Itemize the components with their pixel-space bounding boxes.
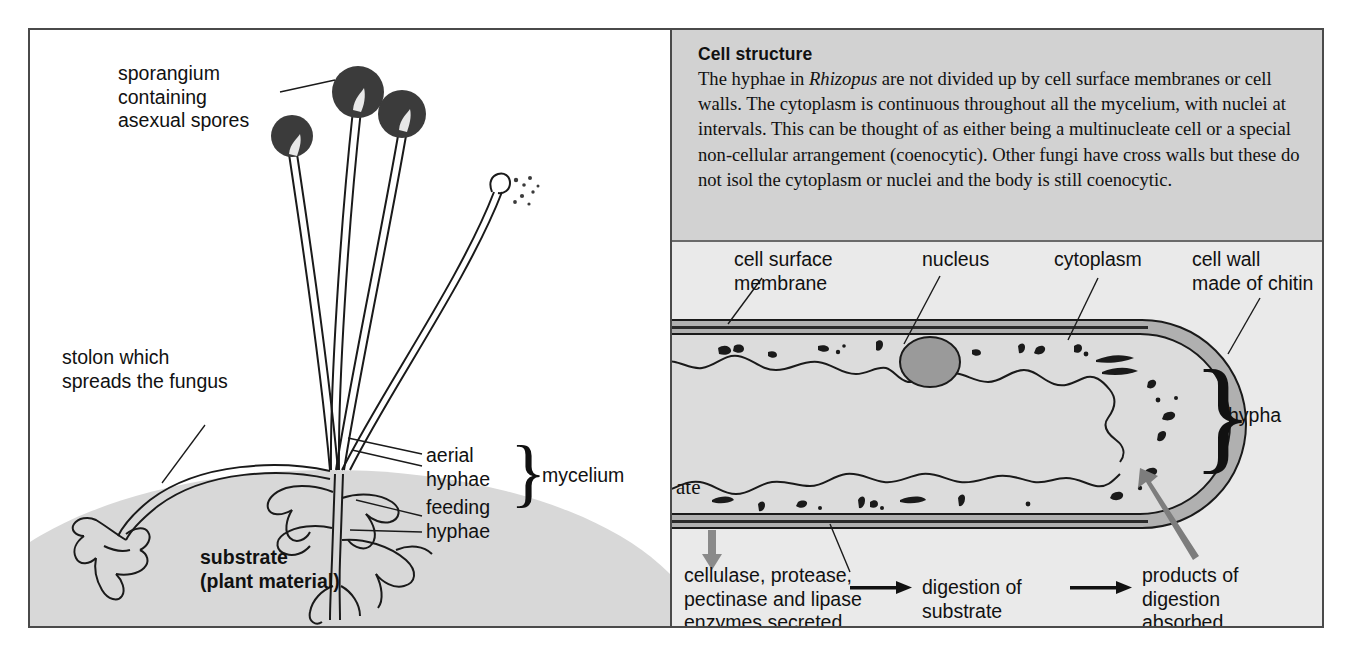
flow-arrow-2	[1070, 581, 1132, 594]
label-substrate: substrate (plant material)	[200, 546, 340, 593]
genus-name-rhizopus: Rhizopus	[809, 68, 877, 89]
membrane-line-bottom	[672, 520, 1148, 523]
label-substrate-clipped: ate	[676, 476, 700, 500]
label-mycelium: mycelium	[542, 464, 624, 488]
sporangium-heads	[271, 66, 426, 157]
mycelium-brace: }	[510, 434, 546, 510]
label-cytoplasm: cytoplasm	[1054, 248, 1142, 272]
label-aerial-hyphae: aerial hyphae	[426, 444, 490, 491]
flow-step-enzymes-secreted: cellulase, protease, pectinase and lipas…	[684, 564, 862, 628]
right-panel-hypha-detail: Cell structure The hyphae in Rhizopus ar…	[672, 28, 1324, 628]
cell-structure-title: Cell structure	[698, 44, 1300, 65]
figure-canvas: sporangium containing asexual spores sto…	[0, 0, 1352, 652]
substrate-mound	[28, 470, 672, 628]
label-cell-wall-made-of-chitin: cell wall made of chitin	[1192, 248, 1313, 295]
label-sporangium: sporangium containing asexual spores	[118, 62, 249, 133]
left-panel-rhizopus-whole-fungus: sporangium containing asexual spores sto…	[28, 28, 672, 628]
label-cell-surface-membrane: cell surface membrane	[734, 248, 833, 295]
flow-step-digestion-of-substrate: digestion of substrate	[922, 576, 1022, 623]
nucleus-shape	[900, 337, 960, 387]
hypha-diagram-area: cell surface membrane nucleus cytoplasm …	[672, 242, 1322, 628]
membrane-line-top	[672, 326, 1148, 329]
label-nucleus: nucleus	[922, 248, 989, 272]
label-stolon: stolon which spreads the fungus	[62, 346, 228, 393]
label-feeding-hyphae: feeding hyphae	[426, 496, 490, 543]
body-text-part-1: The hyphae in	[698, 68, 809, 89]
cell-structure-body: The hyphae in Rhizopus are not divided u…	[698, 66, 1300, 192]
cell-structure-textbox: Cell structure The hyphae in Rhizopus ar…	[672, 30, 1322, 242]
label-hypha: hypha	[1228, 404, 1281, 428]
flow-step-products-absorbed: products of digestion absorbed	[1142, 564, 1238, 628]
